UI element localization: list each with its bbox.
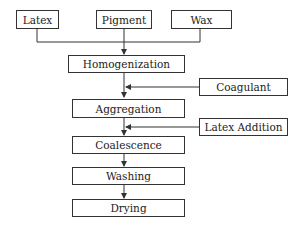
step-washing-label: Washing bbox=[106, 170, 151, 182]
step-coalescence: Coalescence bbox=[72, 136, 185, 154]
step-homogenization-label: Homogenization bbox=[83, 58, 170, 70]
step-coalescence-label: Coalescence bbox=[95, 139, 162, 151]
input-pigment-label: Pigment bbox=[102, 14, 146, 26]
input-pigment: Pigment bbox=[96, 10, 152, 29]
step-aggregation: Aggregation bbox=[72, 99, 185, 118]
step-drying-label: Drying bbox=[110, 202, 146, 214]
input-latex-label: Latex bbox=[23, 14, 53, 26]
side-input-latex-addition-label: Latex Addition bbox=[205, 121, 283, 133]
input-latex: Latex bbox=[16, 10, 59, 29]
side-input-coagulant-label: Coagulant bbox=[216, 81, 271, 93]
step-aggregation-label: Aggregation bbox=[96, 103, 162, 115]
step-washing: Washing bbox=[72, 167, 185, 185]
step-drying: Drying bbox=[72, 199, 185, 217]
step-homogenization: Homogenization bbox=[68, 55, 185, 73]
input-wax: Wax bbox=[171, 10, 232, 29]
side-input-latex-addition: Latex Addition bbox=[199, 118, 288, 136]
input-wax-label: Wax bbox=[190, 14, 212, 26]
side-input-coagulant: Coagulant bbox=[199, 78, 288, 96]
